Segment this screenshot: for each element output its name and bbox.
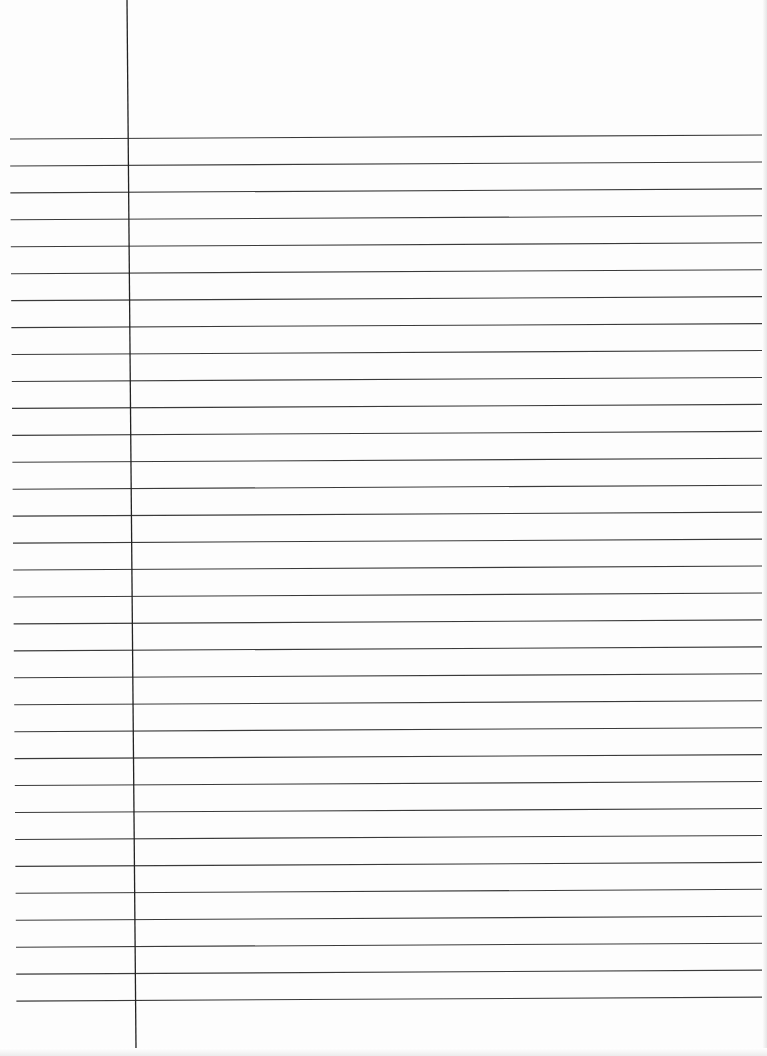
ruled-line (10, 162, 763, 166)
ruled-line (11, 243, 763, 247)
ruled-line (15, 809, 763, 813)
ruled-line (14, 674, 763, 678)
ruled-line (13, 512, 763, 516)
ruled-line (14, 647, 763, 651)
ruled-line (10, 189, 763, 193)
ruled-line (11, 297, 763, 301)
paper-lines (0, 0, 767, 1056)
ruled-line (16, 916, 763, 920)
ruled-line (16, 943, 763, 947)
ruled-line (13, 593, 763, 597)
ruled-line (14, 728, 763, 732)
ruled-line (16, 997, 763, 1001)
ruled-line (12, 404, 763, 408)
ruled-line (10, 135, 763, 139)
paper-edge-bottom (0, 1048, 767, 1056)
margin-line (127, 0, 136, 1048)
ruled-line (14, 701, 763, 705)
paper-edge-right (762, 0, 767, 1056)
ruled-line (16, 889, 763, 893)
ruled-line (13, 539, 763, 543)
ruled-line (12, 377, 763, 381)
ruled-line (12, 351, 763, 355)
ruled-line (15, 755, 763, 759)
ruled-line (14, 620, 763, 624)
ruled-line (11, 216, 763, 220)
ruled-line (12, 431, 763, 435)
lined-paper (0, 0, 767, 1056)
ruled-line (13, 566, 763, 570)
ruled-line (13, 485, 763, 489)
ruled-line (12, 458, 763, 462)
ruled-line (16, 970, 763, 974)
ruled-line (11, 324, 763, 328)
ruled-line (15, 835, 763, 839)
ruled-line (11, 270, 763, 274)
ruled-line (15, 782, 763, 786)
ruled-line (15, 862, 763, 866)
